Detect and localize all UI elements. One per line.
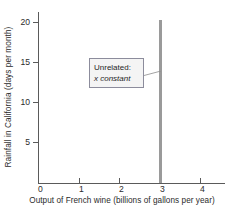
y-tick-label-10: 10 xyxy=(8,97,30,107)
x-tick-label-4: 4 xyxy=(200,184,205,194)
x-tick-label-4-wrap: 4 xyxy=(190,184,210,196)
y-axis-tick-20 xyxy=(33,22,38,23)
x-axis-tick-1 xyxy=(79,178,80,183)
x-axis-tick-4 xyxy=(200,178,201,183)
y-tick-label-5-wrap: 5 xyxy=(8,137,30,148)
x-axis-label: Output of French wine (billions of gallo… xyxy=(14,196,230,205)
y-tick-label-5: 5 xyxy=(8,137,30,147)
y-tick-label-20-wrap: 20 xyxy=(8,17,30,28)
x-tick-label-3: 3 xyxy=(160,184,165,194)
x-axis-tick-2 xyxy=(119,178,120,183)
annotation-line-1: Unrelated: xyxy=(94,62,143,73)
x-tick-label-0: 0 xyxy=(38,184,43,194)
y-axis-line xyxy=(38,12,39,184)
y-axis-tick-10 xyxy=(33,102,38,103)
data-series-vertical-line xyxy=(159,20,162,183)
chart-figure: Rainfall in California (days per month) … xyxy=(0,0,235,216)
x-tick-label-2: 2 xyxy=(119,184,124,194)
x-tick-label-3-wrap: 3 xyxy=(150,184,170,196)
x-tick-label-1-wrap: 1 xyxy=(69,184,89,196)
y-tick-label-15-wrap: 15 xyxy=(8,57,30,68)
annotation-leader-line xyxy=(144,71,161,76)
y-axis-tick-5 xyxy=(33,142,38,143)
annotation-callout: Unrelated: x constant xyxy=(89,58,144,88)
y-axis-tick-15 xyxy=(33,62,38,63)
x-tick-label-1: 1 xyxy=(79,184,84,194)
annotation-line-2: x constant xyxy=(94,73,143,84)
x-tick-label-0-wrap: 0 xyxy=(28,184,48,196)
y-tick-label-20: 20 xyxy=(8,17,30,27)
x-tick-label-2-wrap: 2 xyxy=(109,184,129,196)
y-tick-label-15: 15 xyxy=(8,57,30,67)
y-tick-label-10-wrap: 10 xyxy=(8,97,30,108)
